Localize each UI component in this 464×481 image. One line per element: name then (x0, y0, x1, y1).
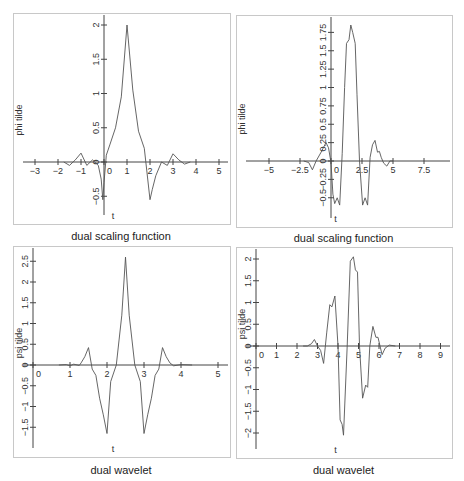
y-tick-label: −1 (243, 384, 253, 394)
y-axis-label: psi tilde (237, 309, 247, 340)
x-tick-label: 2 (294, 350, 299, 360)
x-tick-label: 1 (274, 350, 279, 360)
x-tick-label: 8 (417, 350, 422, 360)
y-tick-label: −0.5 (243, 359, 253, 377)
x-tick-label: 3 (315, 350, 320, 360)
x-tick-label: 6 (376, 350, 381, 360)
y-tick-label: 1.5 (243, 274, 253, 287)
y-tick-label: 1 (243, 300, 253, 305)
x-tick-label: 0 (259, 350, 264, 360)
y-tick-label: 0 (243, 343, 253, 348)
plot-area: 0123456789−2−1.5−1−0.500.511.52tpsi tild… (0, 0, 464, 481)
y-tick-label: 2 (243, 256, 253, 261)
x-tick-label: 9 (438, 350, 443, 360)
x-tick-label: 7 (397, 350, 402, 360)
y-tick-label: −2 (243, 428, 253, 438)
x-axis-label: t (334, 445, 337, 455)
y-tick-label: −1.5 (243, 402, 253, 420)
chart-title: dual wavelet (236, 464, 451, 476)
